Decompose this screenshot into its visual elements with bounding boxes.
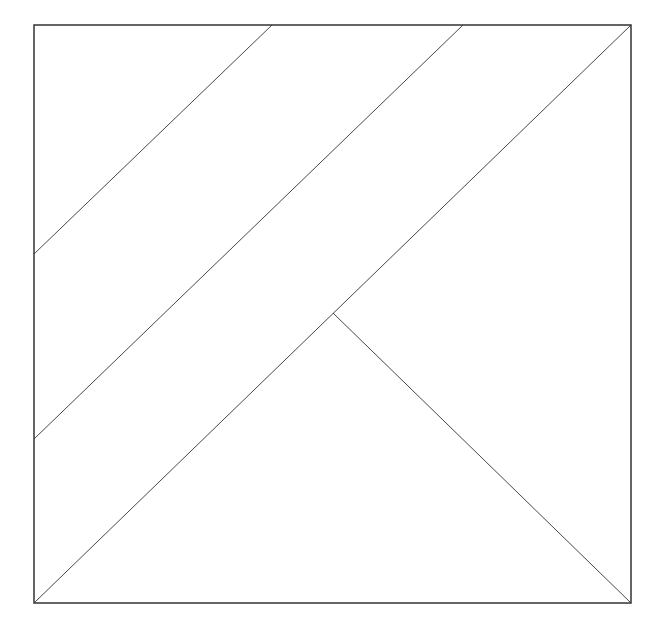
- dissection-lines: [34, 25, 631, 603]
- upper-left-diagonal-line: [34, 25, 272, 254]
- tangram-diagram: [0, 0, 668, 638]
- apex-to-bottom-right-line: [333, 313, 631, 603]
